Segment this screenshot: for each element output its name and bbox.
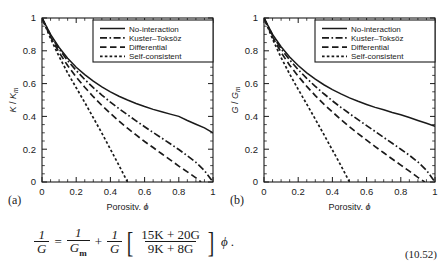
- x-tick-label: 0.6: [138, 186, 151, 197]
- equation-row: 1 G = 1 Gm + 1 G [ 15K + 20G 9K + 8G ] ϕ…: [0, 212, 445, 279]
- y-tick-label: 0.4: [23, 111, 36, 122]
- y-tick-label: 1: [253, 12, 258, 23]
- equation-10-52: 1 G = 1 Gm + 1 G [ 15K + 20G 9K + 8G ] ϕ…: [34, 226, 234, 258]
- eq-bracket-open: [: [127, 230, 134, 254]
- eq-term2-fraction: 1 G: [107, 228, 122, 256]
- y-tick-label: 0.8: [245, 45, 258, 56]
- x-tick-label: 1: [210, 186, 215, 197]
- legend-label-2: Differential: [351, 43, 389, 52]
- y-tick-label: 0.2: [245, 144, 258, 155]
- y-axis-label: G / Gm: [230, 86, 241, 114]
- legend-label-1: Kuster–Toksöz: [129, 34, 181, 43]
- y-tick-label: 0.4: [245, 111, 258, 122]
- legend-label-0: No-interaction: [129, 25, 179, 34]
- legend-label-2: Differential: [129, 43, 167, 52]
- legend-label-1: Kuster–Toksöz: [351, 34, 403, 43]
- eq-bracket-fraction: 15K + 20G 9K + 8G: [138, 228, 203, 256]
- plot-a: 00.20.40.60.8100.20.40.60.81Porosity, ϕK…: [0, 0, 222, 210]
- y-tick-label: 0.6: [245, 78, 258, 89]
- eq-phi: ϕ: [219, 234, 228, 250]
- equation-number: (10.52): [405, 248, 437, 260]
- x-tick-label: 0.4: [326, 186, 339, 197]
- x-tick-label: 0: [261, 186, 266, 197]
- eq-lhs-fraction: 1 G: [34, 228, 49, 256]
- y-tick-label: 0.8: [23, 45, 36, 56]
- x-tick-label: 0: [39, 186, 44, 197]
- panel-a-letter: (a): [8, 193, 21, 208]
- y-tick-label: 1: [31, 12, 36, 23]
- y-tick-label: 0: [253, 176, 258, 187]
- x-axis-label: Porosity, ϕ: [329, 202, 371, 210]
- plot-b: 00.20.40.60.8100.20.40.60.81Porosity, ϕG…: [222, 0, 445, 210]
- x-tick-label: 0.4: [104, 186, 117, 197]
- y-axis-label: K / Km: [8, 87, 19, 113]
- x-tick-label: 1: [432, 186, 437, 197]
- legend-label-3: Self-consistent: [351, 52, 404, 61]
- eq-term1-fraction: 1 Gm: [67, 226, 90, 258]
- eq-plus: +: [93, 234, 104, 250]
- x-tick-label: 0.2: [70, 186, 83, 197]
- eq-equals: =: [52, 234, 63, 250]
- x-tick-label: 0.6: [360, 186, 373, 197]
- eq-bracket-close: ]: [208, 230, 215, 254]
- panel-b-letter: (b): [230, 193, 244, 208]
- y-tick-label: 0: [31, 176, 36, 187]
- x-tick-label: 0.8: [394, 186, 407, 197]
- legend-label-0: No-interaction: [351, 25, 401, 34]
- x-tick-label: 0.8: [172, 186, 185, 197]
- x-axis-label: Porosity, ϕ: [107, 202, 149, 210]
- x-tick-label: 0.2: [292, 186, 305, 197]
- y-tick-label: 0.2: [23, 144, 36, 155]
- panel-a: 00.20.40.60.8100.20.40.60.81Porosity, ϕK…: [0, 0, 222, 210]
- legend-label-3: Self-consistent: [129, 52, 182, 61]
- eq-period: .: [231, 234, 234, 250]
- y-tick-label: 0.6: [23, 78, 36, 89]
- figure-two-panel-plots: 00.20.40.60.8100.20.40.60.81Porosity, ϕK…: [0, 0, 445, 210]
- panel-b: 00.20.40.60.8100.20.40.60.81Porosity, ϕG…: [222, 0, 444, 210]
